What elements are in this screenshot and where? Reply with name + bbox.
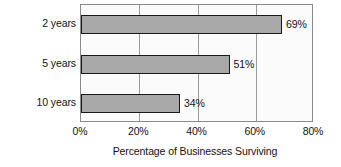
y-axis-tick-label: 10 years (24, 96, 76, 108)
x-axis-tick-label: 0% (60, 125, 100, 137)
x-axis-title: Percentage of Businesses Surviving (60, 145, 330, 157)
bar-chart: Years since Being Started 2 years5 years… (0, 0, 341, 167)
plot-area: 69%51%34% (80, 4, 313, 122)
y-axis-tick-label: 2 years (24, 17, 76, 29)
y-axis-tick-label: 5 years (24, 57, 76, 69)
x-axis-tick-label: 40% (177, 125, 217, 137)
bar-value-label: 69% (286, 18, 307, 30)
bar-value-label: 34% (184, 97, 205, 109)
x-axis-tick-label: 80% (293, 125, 333, 137)
x-axis-tick-label: 60% (235, 125, 275, 137)
bar (81, 94, 180, 113)
bar (81, 55, 230, 74)
x-axis-tick-labels: 0%20%40%60%80% (80, 125, 313, 141)
y-axis-tick-labels: 2 years5 years10 years (26, 4, 78, 122)
bar-value-label: 51% (234, 58, 255, 70)
x-axis-tick-label: 20% (118, 125, 158, 137)
bar (81, 15, 282, 34)
